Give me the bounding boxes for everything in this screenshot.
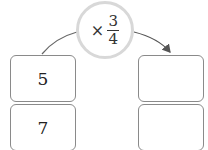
answer-box-1[interactable] [138,55,204,102]
operator-circle: × 3 4 [76,1,134,59]
answer-box-2[interactable] [138,104,204,150]
input-box-2: 7 [10,104,76,150]
left-arc [42,32,77,54]
denominator: 4 [108,32,118,47]
fraction: 3 4 [107,14,119,47]
input-box-1: 5 [10,55,76,102]
right-arrow-icon [134,32,170,52]
numerator: 3 [108,14,118,29]
times-sign: × [91,21,104,40]
